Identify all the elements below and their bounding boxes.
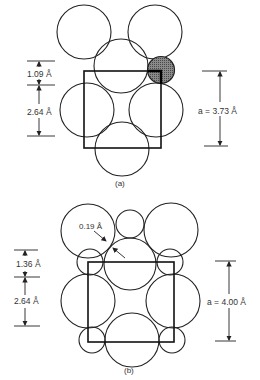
atom-small <box>159 327 185 353</box>
left-dimension-b: 1.36 Å 2.64 Å <box>14 250 41 326</box>
atom-small <box>116 210 144 238</box>
dim-label-top: 1.09 Å <box>27 69 52 79</box>
caption-b: (b) <box>124 366 134 375</box>
right-dimension-a: a = 3.73 Å <box>198 71 237 146</box>
diagram-canvas: 1.09 Å 2.64 Å a = 3.73 Å (a) 0.19 <box>0 0 260 380</box>
atom-large <box>146 274 200 328</box>
figure-b: 0.19 Å 1.36 Å 2.64 Å a = 4.00 Å (b) <box>14 203 246 375</box>
lattice-constant-label: a = 4.00 Å <box>207 297 246 307</box>
dim-label-bottom: 2.64 Å <box>27 107 52 117</box>
atom-large <box>95 122 149 176</box>
dim-label-top: 1.36 Å <box>16 259 41 269</box>
atom-large <box>57 5 111 59</box>
right-dimension-b: a = 4.00 Å <box>207 261 246 341</box>
gap-annotation: 0.19 Å <box>79 222 125 258</box>
atom-large <box>129 83 183 137</box>
atom-large <box>60 83 114 137</box>
figure-a: 1.09 Å 2.64 Å a = 3.73 Å (a) <box>27 5 237 188</box>
lattice-constant-label: a = 3.73 Å <box>198 106 237 116</box>
atom-large <box>61 204 115 258</box>
dim-label-bottom: 2.64 Å <box>14 296 39 306</box>
atom-small <box>79 327 105 353</box>
atom-large <box>94 39 148 93</box>
left-dimension-a: 1.09 Å 2.64 Å <box>27 61 55 136</box>
caption-a: (a) <box>115 179 125 188</box>
atom-large <box>128 5 182 59</box>
atom-large <box>104 238 156 290</box>
gap-label: 0.19 Å <box>79 222 103 231</box>
atom-large <box>105 313 159 367</box>
